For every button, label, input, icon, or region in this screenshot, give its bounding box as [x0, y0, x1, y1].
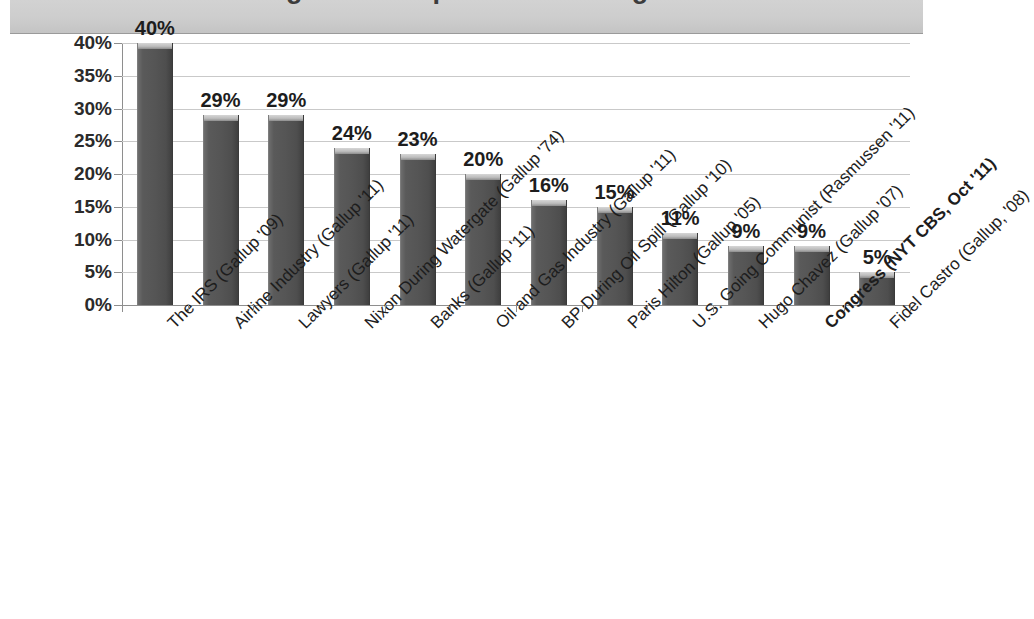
bar-value-label: 20%: [463, 148, 503, 171]
y-axis-tick-mark: [114, 141, 122, 142]
x-axis-tick-mark: [910, 305, 911, 312]
gridline: [122, 207, 910, 208]
y-axis-tick-label: 10%: [4, 229, 112, 251]
bar-value-label: 29%: [266, 89, 306, 112]
bar[interactable]: [137, 43, 173, 305]
bar-value-label: 24%: [332, 122, 372, 145]
x-axis-tick-mark: [319, 305, 320, 312]
x-axis-tick-mark: [450, 305, 451, 312]
x-axis-tick-mark: [253, 305, 254, 312]
y-axis-tick-mark: [114, 305, 122, 306]
y-axis-tick-mark: [114, 240, 122, 241]
bar-top-cap: [532, 200, 566, 206]
x-axis-tick-mark: [844, 305, 845, 312]
bar-top-cap: [269, 115, 303, 121]
x-axis-tick-mark: [385, 305, 386, 312]
gridline: [122, 43, 910, 44]
bar-value-label: 40%: [135, 17, 175, 40]
bar-top-cap: [138, 43, 172, 49]
bar-top-cap: [401, 154, 435, 160]
y-axis-tick-label: 35%: [4, 65, 112, 87]
x-axis-tick-mark: [516, 305, 517, 312]
bar-value-label: 23%: [397, 128, 437, 151]
bar-value-label: 16%: [529, 174, 569, 197]
x-axis-tick-mark: [122, 305, 123, 312]
y-axis-tick-label: 0%: [4, 294, 112, 316]
x-axis-tick-mark: [188, 305, 189, 312]
y-axis-tick-mark: [114, 174, 122, 175]
y-axis-tick-mark: [114, 43, 122, 44]
y-axis-tick-mark: [114, 76, 122, 77]
x-axis-tick-mark: [647, 305, 648, 312]
y-axis-tick-mark: [114, 272, 122, 273]
x-axis-tick-mark: [779, 305, 780, 312]
bar-chart: 40%35%30%25%20%15%10%5%0% 40%29%29%24%23…: [0, 33, 933, 619]
bar-group[interactable]: 40%: [137, 43, 173, 305]
y-axis-tick-label: 20%: [4, 163, 112, 185]
x-axis-tick-mark: [582, 305, 583, 312]
y-axis-tick-label: 5%: [4, 261, 112, 283]
y-axis-tick-label: 30%: [4, 98, 112, 120]
bar-top-cap: [466, 174, 500, 180]
bar-top-cap: [204, 115, 238, 121]
bar-top-cap: [335, 148, 369, 154]
x-axis-tick-mark: [713, 305, 714, 312]
y-axis-tick-mark: [114, 109, 122, 110]
y-axis-tick-label: 40%: [4, 32, 112, 54]
y-axis-labels: 40%35%30%25%20%15%10%5%0%: [0, 43, 112, 305]
gridline: [122, 272, 910, 273]
y-axis-tick-label: 15%: [4, 196, 112, 218]
gridline: [122, 76, 910, 77]
page-title: Things More Popular Than Congress: [10, 0, 923, 5]
y-axis-tick-label: 25%: [4, 130, 112, 152]
gridline: [122, 141, 910, 142]
bar-value-label: 29%: [200, 89, 240, 112]
y-axis-tick-mark: [114, 207, 122, 208]
